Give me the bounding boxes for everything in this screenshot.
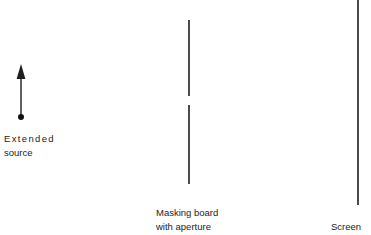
source-point-dot (18, 114, 24, 120)
diagram-vector-layer (0, 0, 371, 235)
extended-source-arrow (17, 64, 26, 120)
screen-label-line1: Screen (331, 221, 361, 232)
optics-diagram-canvas: Extended source Masking board with apert… (0, 0, 371, 235)
masking-board-label: Masking board with aperture (156, 206, 218, 234)
extended-source-label: Extended source (4, 132, 55, 160)
screen-label: Screen (331, 220, 361, 234)
masking-board-label-line1: Masking board (156, 207, 218, 218)
source-arrow-head-icon (17, 64, 26, 79)
extended-source-label-line2: source (4, 146, 55, 160)
extended-source-label-line1: Extended (4, 133, 55, 144)
masking-board-label-line2: with aperture (156, 220, 218, 234)
